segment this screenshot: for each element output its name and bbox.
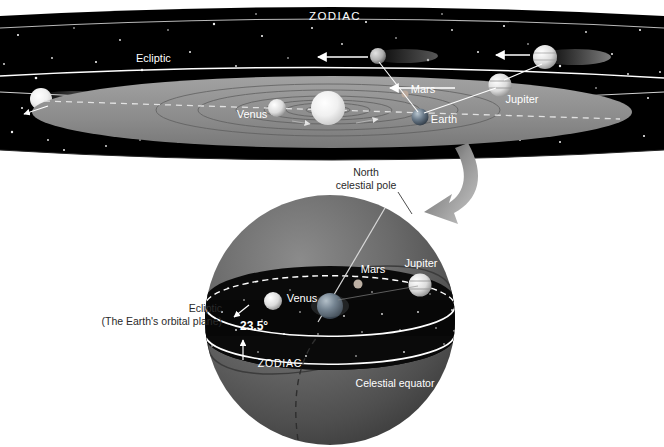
sphere-planet-mars [354,280,363,289]
label-jupiter-sphere: Jupiter [404,257,437,269]
label-ecliptic-top: Ecliptic [136,52,171,64]
label-ecliptic-sphere-line1: Ecliptic [189,302,222,314]
label-north-celestial-pole-line2: celestial pole [336,179,397,191]
label-tilt-angle: 23.5° [240,319,268,333]
planet-venus [268,99,286,117]
label-north-celestial-pole-line1: North [353,166,379,178]
sphere-planet-venus [264,292,282,310]
planet-jupiter-projection [533,45,557,69]
label-earth-top: Earth [431,113,457,125]
sphere-planet-jupiter [409,274,432,297]
label-ecliptic-sphere-line2: (The Earth's orbital plane) [102,315,222,327]
label-venus-sphere: Venus [287,292,318,304]
astronomy-diagram: ZODIAC Ecliptic Venus Mars Earth Jupiter [0,0,664,447]
sun [311,91,345,125]
figure-canvas: ZODIAC Ecliptic Venus Mars Earth Jupiter [0,0,664,447]
planet-earth [412,109,429,126]
sphere-panel: North celestial pole Ecliptic (The Earth… [102,166,463,445]
label-mars-sphere: Mars [361,263,386,275]
label-celestial-equator: Celestial equator [356,377,435,389]
top-panel: ZODIAC Ecliptic Venus Mars Earth Jupiter [0,7,664,160]
leader-north-celestial-pole [398,192,412,214]
label-mars-top: Mars [411,83,436,95]
label-jupiter-top: Jupiter [505,93,538,105]
planet-mars-projection [370,48,386,64]
label-venus-top: Venus [237,108,268,120]
label-zodiac-sphere: ZODIAC [258,357,302,369]
label-zodiac-top: ZODIAC [309,10,361,22]
